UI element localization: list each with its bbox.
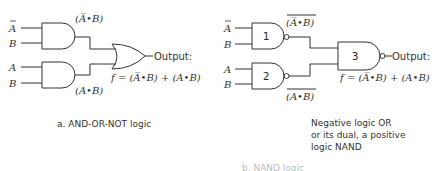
caption-b: Negative logic OR or its dual, a positiv… <box>311 117 405 153</box>
input-label-a: A <box>8 62 16 73</box>
gate-number-1: 1 <box>263 31 269 42</box>
and2-output-label: (A•B) <box>75 85 103 96</box>
caption-b-line-3: logic NAND <box>311 141 405 153</box>
gate-number-3: 3 <box>352 51 358 62</box>
cut-off-caption: b. NAND logic <box>242 163 304 171</box>
caption-a: a. AND-OR-NOT logic <box>57 118 151 130</box>
input-label-a-not: A <box>8 23 16 34</box>
nand2-output-label: (A•B) <box>286 91 314 102</box>
wire-and1-or <box>75 37 116 49</box>
wire-nand2-nand3 <box>289 64 338 76</box>
nand-gate-3 <box>338 42 380 70</box>
and-gate-1 <box>42 23 75 49</box>
inversion-bubble-2 <box>284 74 289 79</box>
inversion-bubble-1 <box>284 35 289 40</box>
and-gate-2 <box>42 62 75 88</box>
gate-number-2: 2 <box>263 71 269 82</box>
input-label-b-a-not: A <box>223 23 231 34</box>
or-gate <box>112 44 145 69</box>
output-label-b: Output: <box>392 51 430 62</box>
caption-b-line-1: Negative logic OR <box>311 117 405 129</box>
input-label-b2: B <box>8 78 16 89</box>
equation-a: f = (A̅•B) + (A•B) <box>110 72 201 83</box>
output-label-a: Output: <box>154 51 192 62</box>
wire-nand1-nand3 <box>289 37 338 48</box>
inversion-bubble-3 <box>380 54 385 59</box>
input-label-b-b1: B <box>223 39 231 50</box>
input-label-b-b2: B <box>223 79 231 90</box>
input-label-b1: B <box>8 38 16 49</box>
wire-and2-or <box>75 64 116 75</box>
caption-b-line-2: or its dual, a positive <box>311 129 405 141</box>
nand1-output-label: (A̅•B) <box>286 17 314 28</box>
equation-b: f = (A̅•B) + (A•B) <box>339 72 430 83</box>
and1-output-label: (A̅•B) <box>75 13 103 24</box>
input-label-b-a: A <box>223 64 231 75</box>
